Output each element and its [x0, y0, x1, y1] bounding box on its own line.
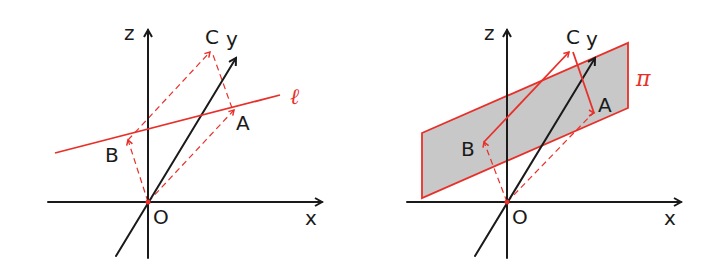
x-axis-label: x: [664, 206, 676, 230]
point-a-label: A: [598, 93, 612, 117]
point-b-label: B: [461, 137, 475, 161]
left-panel: z y x O A B C ℓ: [48, 21, 322, 258]
diagram-canvas: z y x O A B C ℓ z y x O A B C π: [0, 0, 718, 280]
y-axis-label: y: [586, 27, 598, 51]
x-axis-label: x: [305, 206, 317, 230]
vector-oa: [148, 110, 234, 202]
y-axis-label: y: [226, 27, 238, 51]
dashed-b-to-c: [128, 52, 210, 140]
origin-point: [146, 200, 151, 205]
point-a-label: A: [236, 111, 250, 135]
point-c-label: C: [566, 25, 580, 49]
z-axis-label: z: [484, 21, 495, 45]
origin-point: [505, 200, 510, 205]
origin-label: O: [153, 205, 169, 229]
right-panel: z y x O A B C π: [407, 21, 681, 258]
point-c-label: C: [205, 25, 219, 49]
point-b-label: B: [105, 143, 119, 167]
origin-label: O: [512, 205, 528, 229]
vector-ob: [128, 140, 148, 202]
z-axis-label: z: [124, 21, 135, 45]
line-l-label: ℓ: [290, 84, 300, 109]
plane-pi-label: π: [635, 66, 651, 91]
